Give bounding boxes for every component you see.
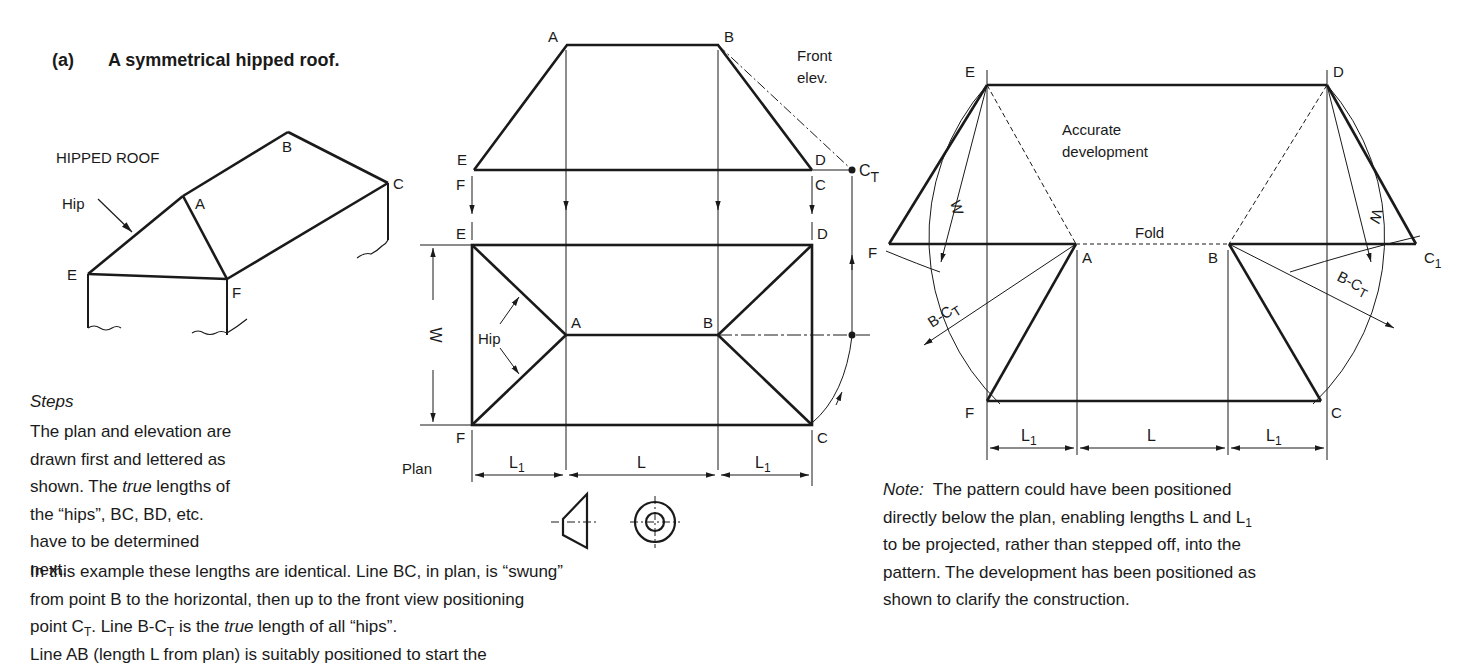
steps-line: The plan and elevation are — [30, 418, 240, 446]
pictorial-point-c: C — [393, 175, 404, 192]
elevation-caption-2: elev. — [797, 69, 828, 86]
hip-edge-bc — [288, 132, 388, 183]
note-line: Note: The pattern could have been positi… — [883, 476, 1443, 504]
dev-w-label-left: W — [947, 198, 967, 217]
elevation-outline — [474, 45, 812, 170]
steps-paragraph-wide: In this example these lengths are identi… — [30, 558, 910, 668]
elev-point-a: A — [548, 28, 558, 45]
steps-line: from point B to the horizontal, then up … — [30, 586, 910, 614]
pictorial-hip-label: Hip — [62, 195, 85, 212]
swing-point-dot — [849, 332, 856, 339]
ridge-ab — [183, 132, 288, 196]
elev-point-f: F — [456, 176, 465, 193]
plan-point-f: F — [456, 429, 465, 446]
point-ct-dot — [849, 167, 856, 174]
dev-bct-label-left: B-CT — [924, 298, 964, 334]
dev-point-c-bottom: C — [1331, 404, 1342, 421]
note-label: Note: — [883, 480, 924, 499]
note-line: shown to clarify the construction. — [883, 586, 1443, 614]
plan-hip-label: Hip — [478, 330, 501, 347]
pictorial-point-f: F — [232, 284, 241, 301]
dev-w-label-right: W — [1366, 207, 1386, 226]
steps-line: In this example these lengths are identi… — [30, 558, 910, 586]
plan-dim-l1-left: L1 — [509, 454, 525, 475]
development-pattern — [886, 70, 1420, 460]
frustum-side-view — [563, 494, 587, 548]
projection-lines — [472, 50, 870, 470]
note-paragraph: Note: The pattern could have been positi… — [883, 476, 1443, 614]
plan-point-a: A — [571, 314, 581, 331]
steps-line: the “hips”, BC, BD, etc. — [30, 501, 240, 529]
note-line: directly below the plan, enabling length… — [883, 504, 1443, 532]
plan-point-b: B — [703, 314, 713, 331]
break-line-e — [88, 326, 121, 330]
dev-dim-l: L — [1147, 427, 1156, 444]
pictorial-point-b: B — [282, 138, 292, 155]
projection-symbol — [551, 494, 680, 548]
dev-point-e: E — [965, 63, 975, 80]
fold-label: Fold — [1135, 224, 1164, 241]
dev-point-a: A — [1082, 249, 1092, 266]
pictorial-caption: HIPPED ROOF — [56, 149, 159, 166]
hip-leader-arrow — [98, 199, 132, 232]
plan-point-e: E — [456, 225, 466, 242]
steps-line: drawn first and lettered as — [30, 446, 240, 474]
elev-point-b: B — [724, 28, 734, 45]
pictorial-point-e: E — [67, 266, 77, 283]
dev-point-f-bottom: F — [965, 404, 974, 421]
note-line: to be projected, rather than stepped off… — [883, 531, 1443, 559]
dev-point-f-left: F — [868, 244, 877, 261]
eave-ef — [88, 274, 227, 279]
elev-point-d: D — [815, 151, 826, 168]
steps-line: point CT. Line B-CT is the true length o… — [30, 613, 910, 641]
steps-line: Line AB (length L from plan) is suitably… — [30, 641, 910, 669]
break-line-f — [192, 319, 247, 335]
elev-point-ct: CT — [859, 162, 880, 185]
plan-view — [420, 245, 812, 486]
dev-caption-1: Accurate — [1062, 121, 1121, 138]
plan-point-d: D — [817, 225, 828, 242]
note-line: pattern. The development has been positi… — [883, 559, 1443, 587]
pictorial-point-a: A — [195, 195, 205, 212]
elev-point-e: E — [457, 151, 467, 168]
dev-point-c1: C1 — [1424, 249, 1442, 271]
dev-bct-label-right: B-CT — [1333, 268, 1373, 302]
dev-caption-2: development — [1062, 143, 1149, 160]
plan-caption: Plan — [402, 460, 432, 477]
dev-point-d: D — [1333, 63, 1344, 80]
elev-point-c: C — [815, 176, 826, 193]
plan-width-label: W — [427, 327, 444, 343]
plan-dim-l: L — [637, 454, 646, 471]
hip-edge-ea — [88, 196, 183, 274]
break-line-c — [357, 240, 388, 258]
elevation-caption-1: Front — [797, 47, 833, 64]
plan-point-c: C — [817, 429, 828, 446]
eave-fc — [227, 183, 388, 279]
plan-dim-l1-right: L1 — [755, 454, 771, 475]
steps-line: shown. The true lengths of — [30, 473, 240, 501]
dev-dim-l1-right: L1 — [1266, 427, 1282, 448]
steps-heading: Steps — [30, 392, 73, 412]
front-elevation — [474, 45, 856, 174]
dev-dim-l1-left: L1 — [1021, 427, 1037, 448]
dev-point-b: B — [1208, 249, 1218, 266]
